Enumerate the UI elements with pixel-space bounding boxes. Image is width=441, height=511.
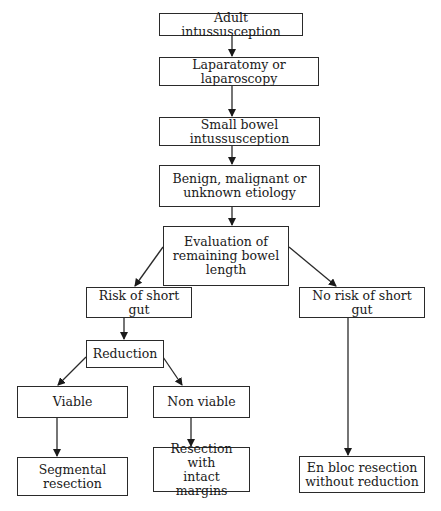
node-label: Adult intussusception bbox=[164, 11, 298, 39]
node-label: Evaluation of remaining bowel length bbox=[173, 235, 279, 277]
flowchart-canvas: Adult intussusception Laparatomy or lapa… bbox=[0, 0, 441, 511]
node-label: Resection with intact margins bbox=[158, 442, 245, 498]
node-label: Segmental resection bbox=[39, 463, 107, 491]
node-etiology: Benign, malignant or unknown etiology bbox=[159, 165, 320, 207]
node-no-risk-of-short-gut: No risk of short gut bbox=[299, 287, 425, 318]
node-viable: Viable bbox=[17, 386, 128, 418]
node-non-viable: Non viable bbox=[153, 386, 250, 418]
node-label: Benign, malignant or unknown etiology bbox=[173, 172, 307, 200]
node-adult-intussusception: Adult intussusception bbox=[159, 13, 303, 36]
node-label: Small bowel intussusception bbox=[164, 118, 315, 146]
node-risk-of-short-gut: Risk of short gut bbox=[86, 287, 192, 318]
node-label: Laparatomy or laparoscopy bbox=[164, 58, 314, 86]
node-en-bloc-resection: En bloc resection without reduction bbox=[299, 456, 425, 493]
node-label: Risk of short gut bbox=[91, 289, 187, 317]
node-label: Reduction bbox=[93, 347, 157, 361]
node-label: En bloc resection without reduction bbox=[305, 461, 418, 489]
node-segmental-resection: Segmental resection bbox=[17, 457, 128, 496]
node-small-bowel-intussusception: Small bowel intussusception bbox=[159, 117, 320, 146]
node-laparatomy-or-laparoscopy: Laparatomy or laparoscopy bbox=[159, 57, 319, 86]
node-label: No risk of short gut bbox=[304, 289, 420, 317]
node-label: Viable bbox=[53, 395, 93, 409]
node-label: Non viable bbox=[167, 395, 235, 409]
node-evaluation-bowel-length: Evaluation of remaining bowel length bbox=[163, 226, 289, 286]
node-resection-intact-margins: Resection with intact margins bbox=[153, 447, 250, 492]
node-reduction: Reduction bbox=[86, 340, 164, 368]
